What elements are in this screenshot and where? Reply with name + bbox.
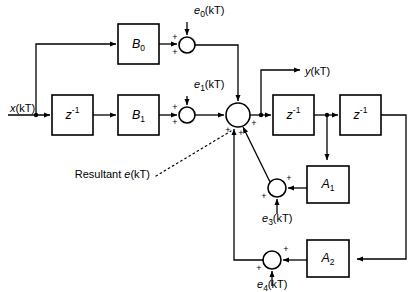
plus-sign-sum4-right: + xyxy=(283,244,288,254)
block-z1: z-1 xyxy=(52,95,93,135)
block-diagram-figure: B0 z-1 B1 z-1 z-1 xyxy=(0,0,416,292)
plus-sign-sum1-bottom: + xyxy=(172,117,177,127)
plus-sign-main-left: + xyxy=(225,125,230,135)
block-b0-label: B xyxy=(132,37,140,51)
summing-junction-4 xyxy=(263,251,281,269)
plus-sign-main-mid: + xyxy=(238,128,243,138)
block-a2: A2 xyxy=(307,240,349,277)
summing-junction-3 xyxy=(268,179,286,197)
node-output-branch xyxy=(259,113,263,117)
wire-z3-to-a2 xyxy=(357,115,406,259)
diagram-canvas: B0 z-1 B1 z-1 z-1 xyxy=(0,0,416,292)
plus-sign-main-right: + xyxy=(251,118,256,128)
resultant-pointer-line xyxy=(156,131,231,176)
plus-sign-sum1-top: + xyxy=(172,102,177,112)
label-noise-e0: e0(kT) xyxy=(194,4,224,19)
block-z1-sup: -1 xyxy=(72,105,80,115)
label-noise-e4: e4(kT) xyxy=(257,278,287,292)
label-output-signal: y(kT) xyxy=(304,65,330,77)
summing-junction-0 xyxy=(179,37,195,53)
wire-sum3-to-main-sum xyxy=(243,127,270,182)
annotation-resultant: Resultant e(kT) xyxy=(75,168,150,180)
plus-sign-sum4-left: + xyxy=(256,263,261,273)
plus-sign-sum3-right: + xyxy=(286,173,291,183)
plus-sign-sum0-top: + xyxy=(172,32,177,42)
block-z2: z-1 xyxy=(273,95,314,135)
block-a2-label: A xyxy=(320,251,329,265)
block-a2-sub: 2 xyxy=(330,257,335,267)
label-noise-e3: e3(kT) xyxy=(262,212,292,227)
block-b1-label: B xyxy=(132,108,140,122)
label-input-signal: x(kT) xyxy=(9,102,35,114)
plus-sign-sum3-left: + xyxy=(261,191,266,201)
label-noise-e1: e1(kT) xyxy=(194,78,224,93)
wire-sum4-to-main-sum xyxy=(234,129,263,260)
block-b0: B0 xyxy=(118,24,159,64)
block-b1: B1 xyxy=(118,95,159,135)
block-b0-sub: 0 xyxy=(140,43,145,53)
summing-junction-main xyxy=(226,103,250,127)
block-a1-label: A xyxy=(320,177,329,191)
block-z3: z-1 xyxy=(340,95,381,135)
block-b1-sub: 1 xyxy=(140,114,145,124)
block-a1: A1 xyxy=(307,166,349,203)
block-a1-sub: 1 xyxy=(330,183,335,193)
plus-sign-sum0-bottom: + xyxy=(172,47,177,57)
summing-junction-1 xyxy=(179,107,195,123)
block-z2-sup: -1 xyxy=(293,105,301,115)
block-z3-sup: -1 xyxy=(360,105,368,115)
